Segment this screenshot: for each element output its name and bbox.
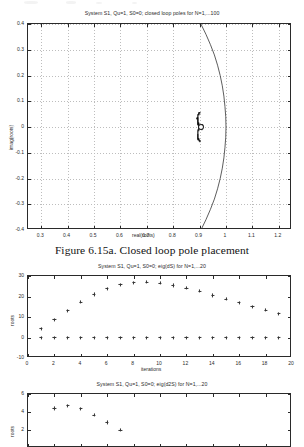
x-tick-label: 12 <box>183 360 189 366</box>
data-point-marker <box>92 336 95 339</box>
data-point-marker <box>92 293 95 296</box>
y-tick-label: 4 <box>4 408 24 414</box>
x-axis-label: iterations <box>141 366 161 372</box>
data-point-marker <box>66 404 69 407</box>
x-tick <box>160 276 161 279</box>
scan-artifact <box>66 1 76 4</box>
data-point-marker <box>172 336 175 339</box>
y-tick-label: -0.1 <box>4 149 24 155</box>
x-tick <box>160 394 161 397</box>
x-tick-label: 16 <box>235 360 241 366</box>
y-tick-label: -10 <box>4 354 24 360</box>
x-tick-label: 2 <box>52 360 55 366</box>
data-point-marker <box>158 336 161 339</box>
x-tick <box>134 394 135 397</box>
data-point-marker <box>264 308 267 311</box>
data-point-marker <box>290 315 291 318</box>
chart-title: System S1, Qu=1, S0=0; closed loop poles… <box>0 10 304 16</box>
y-tick <box>28 297 31 298</box>
x-tick <box>266 354 267 357</box>
x-tick-label: 0.4 <box>63 232 70 238</box>
data-point-marker <box>132 336 135 339</box>
x-tick <box>81 276 82 279</box>
x-tick <box>81 444 82 447</box>
x-tick <box>81 354 82 357</box>
x-tick <box>107 354 108 357</box>
chart-closed-loop-poles: System S1, Qu=1, S0=0; closed loop poles… <box>0 10 304 242</box>
data-point-marker <box>53 318 56 321</box>
x-tick <box>239 354 240 357</box>
x-tick-label: 4 <box>78 360 81 366</box>
x-tick <box>160 444 161 447</box>
x-tick <box>213 354 214 357</box>
unit-circle-arc <box>28 24 291 229</box>
data-point-marker <box>145 336 148 339</box>
plot-area <box>27 275 291 357</box>
x-tick-label: 0.9 <box>195 232 202 238</box>
x-tick <box>160 354 161 357</box>
y-tick <box>28 338 31 339</box>
y-tick-label: 0.3 <box>4 46 24 52</box>
data-point-marker <box>290 336 291 339</box>
x-tick <box>213 394 214 397</box>
y-axis-label: imag(roots) <box>8 125 14 150</box>
data-point-marker <box>172 284 175 287</box>
data-point-marker <box>264 336 267 339</box>
x-tick <box>213 444 214 447</box>
data-point-marker <box>53 336 56 339</box>
data-point-marker <box>66 336 69 339</box>
y-axis-label: roots <box>9 426 15 437</box>
y-tick <box>28 394 31 395</box>
data-point-marker <box>40 336 43 339</box>
y-tick-label: 0 <box>4 123 24 129</box>
x-tick <box>54 394 55 397</box>
data-point-marker <box>92 414 95 417</box>
y-tick <box>288 276 291 277</box>
x-tick <box>134 276 135 279</box>
x-tick <box>186 354 187 357</box>
data-point-marker <box>211 294 214 297</box>
scan-artifact <box>132 2 137 4</box>
data-point-marker <box>251 305 254 308</box>
plot-area <box>27 393 291 447</box>
data-point-marker <box>158 281 161 284</box>
x-tick <box>186 444 187 447</box>
x-tick-label: 20 <box>288 360 294 366</box>
x-tick-label: 0.8 <box>169 232 176 238</box>
chart-eig-d2s: System S1, Qu=1, S0=0; eig(d2S) for N=1,… <box>0 381 304 447</box>
y-tick-label: 20 <box>4 293 24 299</box>
y-tick-label: 0.1 <box>4 97 24 103</box>
x-tick <box>213 276 214 279</box>
x-tick-label: 1.1 <box>248 232 255 238</box>
data-point-marker <box>53 407 56 410</box>
x-tick <box>266 276 267 279</box>
data-point-marker <box>145 281 148 284</box>
x-tick <box>266 444 267 447</box>
pole-open-circle <box>198 124 204 130</box>
data-point-marker <box>106 287 109 290</box>
x-tick <box>239 276 240 279</box>
x-tick <box>54 276 55 279</box>
data-point-marker <box>277 336 280 339</box>
x-axis-label: real(roots) <box>132 232 155 238</box>
data-point-marker <box>211 336 214 339</box>
y-tick <box>28 317 31 318</box>
x-tick-label: 14 <box>209 360 215 366</box>
y-tick <box>288 394 291 395</box>
x-tick-label: 1 <box>224 232 227 238</box>
scan-artifact <box>24 1 38 4</box>
chart-eig-ds: System S1, Qu=1, S0=0; eig(dS) for N=1,.… <box>0 263 304 378</box>
data-point-marker <box>224 336 227 339</box>
data-point-marker <box>119 336 122 339</box>
x-tick <box>107 276 108 279</box>
x-tick <box>134 444 135 447</box>
y-tick <box>28 276 31 277</box>
x-tick <box>186 276 187 279</box>
data-point-marker <box>40 327 43 330</box>
document-page: System S1, Qu=1, S0=0; closed loop poles… <box>0 0 304 447</box>
x-tick-label: 0.5 <box>90 232 97 238</box>
y-axis-label: roots <box>9 315 15 326</box>
x-tick-label: 0.6 <box>116 232 123 238</box>
y-tick <box>288 430 291 431</box>
data-point-marker <box>185 287 188 290</box>
